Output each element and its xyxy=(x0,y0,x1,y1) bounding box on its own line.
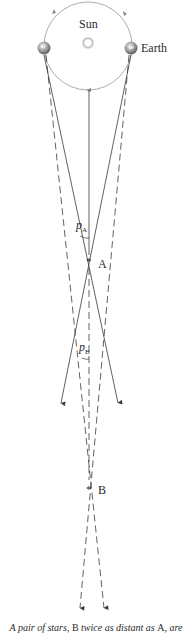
caption-star-b: B xyxy=(72,622,79,633)
parallax-a-subscript: A xyxy=(82,226,87,234)
sun-label: Sun xyxy=(79,17,98,32)
earth-right-icon xyxy=(125,42,138,55)
sightline-b-right xyxy=(80,55,129,608)
parallax-b-subscript: B xyxy=(85,348,90,356)
parallax-b-label: pB xyxy=(79,340,90,356)
caption-text: A pair of stars, xyxy=(10,622,72,633)
parallax-arc-b xyxy=(82,358,89,359)
parallax-diagram xyxy=(0,0,192,641)
orbit-arrow-icon xyxy=(52,9,56,14)
caption-text: twice as distant as xyxy=(79,622,158,633)
parallax-arc-a xyxy=(80,236,89,238)
parallax-a-label: pA xyxy=(76,218,87,234)
star-a-label: A xyxy=(98,257,107,272)
caption-text: , are xyxy=(164,622,182,633)
orbit-arrow-icon xyxy=(86,88,91,92)
figure-caption: A pair of stars, B twice as distant as A… xyxy=(0,622,192,633)
star-b-label: B xyxy=(98,483,106,498)
star-a-marker: * xyxy=(86,255,92,267)
star-b-marker: * xyxy=(86,483,92,495)
sun xyxy=(81,36,95,50)
sightline-b-left xyxy=(46,55,104,608)
earth-left-icon xyxy=(38,42,51,55)
sightline-a-right xyxy=(61,55,131,403)
earth-label: Earth xyxy=(141,41,167,56)
orbit-arrow-icon xyxy=(123,11,127,16)
